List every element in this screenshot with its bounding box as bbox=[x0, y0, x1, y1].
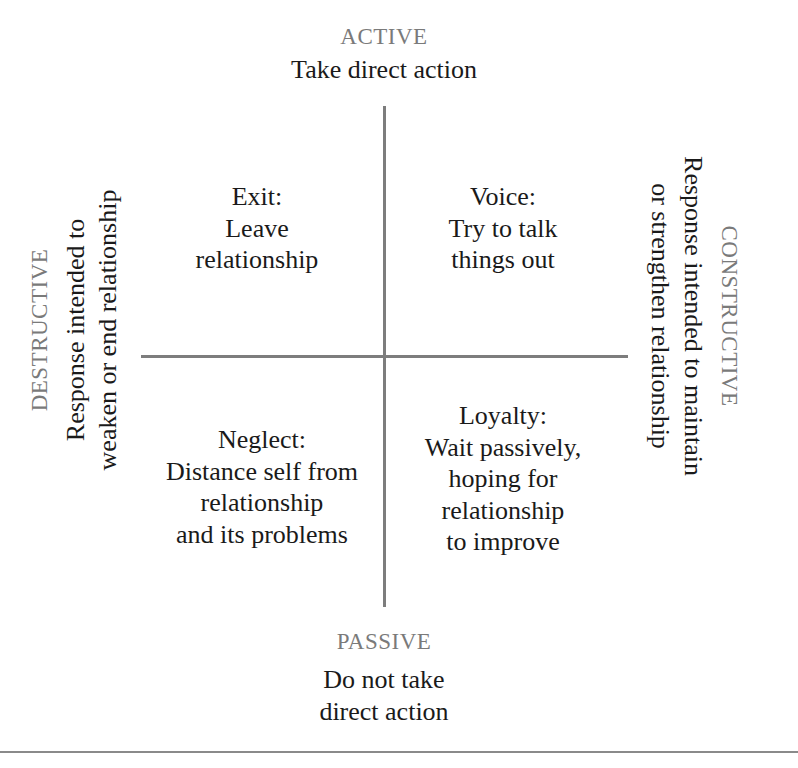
axis-description-constructive-line: or strengthen relationship bbox=[644, 183, 676, 449]
quadrant-voice-title: Voice: bbox=[449, 181, 558, 213]
axis-label-active: ACTIVE bbox=[340, 24, 427, 50]
quadrant-loyalty-title: Loyalty: bbox=[425, 400, 582, 432]
quadrant-exit-line: relationship bbox=[196, 244, 319, 276]
quadrant-exit-line: Leave bbox=[196, 213, 319, 245]
quadrant-voice-line: things out bbox=[449, 244, 558, 276]
quadrant-loyalty: Loyalty: Wait passively, hoping for rela… bbox=[425, 400, 582, 558]
axis-label-passive: PASSIVE bbox=[337, 629, 432, 655]
quadrant-neglect-line: relationship bbox=[166, 487, 358, 519]
axis-description-destructive-line: Response intended to bbox=[60, 219, 92, 441]
axis-description-passive: Do not take direct action bbox=[319, 664, 448, 727]
quadrant-neglect-title: Neglect: bbox=[166, 424, 358, 456]
horizontal-axis-line bbox=[141, 355, 628, 358]
axis-label-destructive: DESTRUCTIVE bbox=[27, 249, 53, 412]
axis-description-constructive-line: Response intended to maintain bbox=[677, 156, 709, 476]
axis-description-active: Take direct action bbox=[291, 54, 477, 86]
quadrant-neglect-line: and its problems bbox=[166, 519, 358, 551]
quadrant-neglect: Neglect: Distance self from relationship… bbox=[166, 424, 358, 550]
quadrant-loyalty-line: to improve bbox=[425, 526, 582, 558]
axis-label-constructive: CONSTRUCTIVE bbox=[716, 225, 742, 406]
axis-description-destructive-line: weaken or end relationship bbox=[92, 190, 124, 471]
quadrant-exit: Exit: Leave relationship bbox=[196, 181, 319, 276]
axis-description-passive-line: Do not take bbox=[319, 664, 448, 696]
quadrant-voice-line: Try to talk bbox=[449, 213, 558, 245]
quadrant-loyalty-line: relationship bbox=[425, 495, 582, 527]
quadrant-exit-title: Exit: bbox=[196, 181, 319, 213]
quadrant-loyalty-line: Wait passively, bbox=[425, 432, 582, 464]
quadrant-neglect-line: Distance self from bbox=[166, 456, 358, 488]
quadrant-voice: Voice: Try to talk things out bbox=[449, 181, 558, 276]
bottom-divider bbox=[0, 751, 798, 753]
quadrant-loyalty-line: hoping for bbox=[425, 463, 582, 495]
axis-description-passive-line: direct action bbox=[319, 696, 448, 728]
